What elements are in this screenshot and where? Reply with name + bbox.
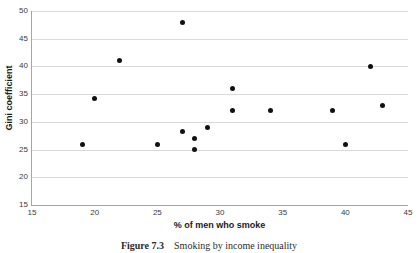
data-point <box>92 96 97 101</box>
y-axis-title-label: Gini coefficient <box>3 65 13 130</box>
figure-caption: Figure 7.3Smoking by income inequality <box>0 240 418 251</box>
y-axis-tick-20: 20 <box>19 173 28 181</box>
data-point <box>205 125 210 130</box>
data-point <box>180 129 185 134</box>
y-axis-tick-50: 50 <box>19 7 28 15</box>
x-axis-tick-35: 35 <box>278 209 287 217</box>
data-point <box>155 142 160 147</box>
data-point <box>343 142 348 147</box>
data-point <box>192 147 197 152</box>
y-axis-tick-40: 40 <box>19 62 28 70</box>
data-point <box>330 108 335 113</box>
gridline-y-20 <box>32 177 408 178</box>
x-axis-tick-20: 20 <box>90 209 99 217</box>
y-axis-tick-25: 25 <box>19 146 28 154</box>
y-axis-tick-35: 35 <box>19 90 28 98</box>
data-point <box>268 108 273 113</box>
data-point <box>192 136 197 141</box>
x-axis-tick-25: 25 <box>153 209 162 217</box>
gridline-y-25 <box>32 150 408 151</box>
x-axis-title: % of men who smoke <box>31 220 408 230</box>
data-point <box>80 142 85 147</box>
data-point <box>180 20 185 25</box>
plot-area: 152025303540455015202530354045 <box>31 11 408 206</box>
y-axis-title: Gini coefficient <box>1 0 15 195</box>
gridline-y-35 <box>32 94 408 95</box>
figure-caption-label: Figure 7.3 <box>121 240 164 251</box>
x-axis-tick-30: 30 <box>216 209 225 217</box>
data-point <box>368 64 373 69</box>
gridline-y-45 <box>32 39 408 40</box>
x-axis-tick-15: 15 <box>28 209 37 217</box>
gridline-y-30 <box>32 122 408 123</box>
y-axis-tick-45: 45 <box>19 35 28 43</box>
data-point <box>230 86 235 91</box>
data-point <box>117 58 122 63</box>
gridline-y-50 <box>32 11 408 12</box>
figure-caption-text: Smoking by income inequality <box>174 240 297 251</box>
figure-scatter-smoking-inequality: Gini coefficient 15202530354045501520253… <box>0 0 418 253</box>
x-axis-tick-45: 45 <box>404 209 413 217</box>
y-axis-tick-30: 30 <box>19 118 28 126</box>
data-point <box>230 108 235 113</box>
x-axis-tick-40: 40 <box>341 209 350 217</box>
data-point <box>380 103 385 108</box>
gridline-y-40 <box>32 66 408 67</box>
